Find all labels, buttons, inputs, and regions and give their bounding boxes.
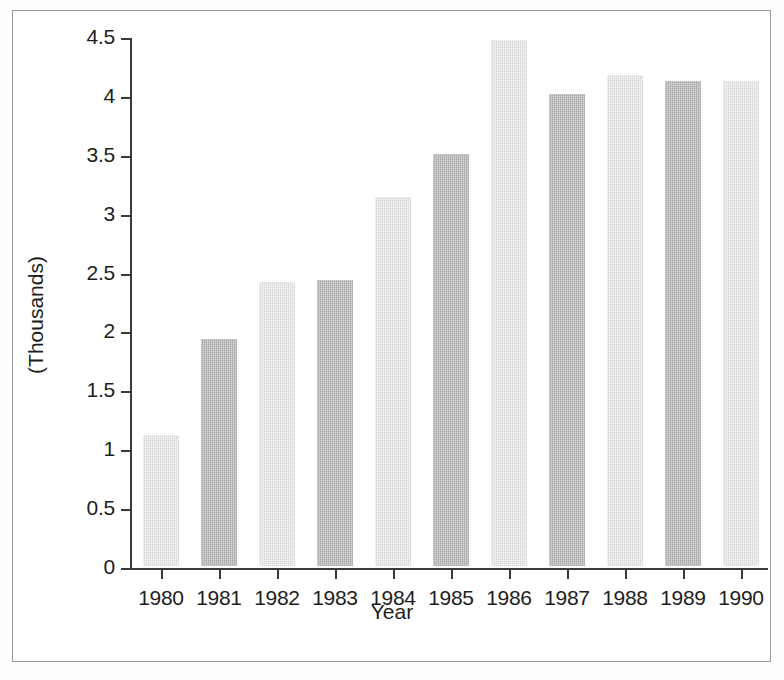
y-axis-tick-label: 0 xyxy=(55,555,115,579)
bar-1989 xyxy=(665,81,701,566)
y-axis-tick-label: 3.5 xyxy=(55,143,115,167)
figure-container: (Thousands) 00.511.522.533.544.5 1980198… xyxy=(0,0,784,680)
y-axis-tick xyxy=(121,97,131,99)
y-axis-line xyxy=(130,38,132,569)
x-axis-tick xyxy=(741,569,743,579)
x-axis-tick xyxy=(683,569,685,579)
x-axis-title: Year xyxy=(0,600,784,624)
y-axis-tick-label: 1.5 xyxy=(55,378,115,402)
y-axis-tick-label: 2.5 xyxy=(55,261,115,285)
y-axis-tick-label: 4 xyxy=(55,84,115,108)
x-axis-tick xyxy=(393,569,395,579)
x-axis-tick xyxy=(277,569,279,579)
y-axis-tick-label: 4.5 xyxy=(55,25,115,49)
bar-1982 xyxy=(259,282,295,566)
y-axis-tick xyxy=(121,215,131,217)
bar-1985 xyxy=(433,154,469,566)
x-axis-tick xyxy=(567,569,569,579)
y-axis-tick xyxy=(121,38,131,40)
plot-area: 00.511.522.533.544.5 1980198119821983198… xyxy=(130,38,768,568)
x-axis-tick xyxy=(509,569,511,579)
bar-1983 xyxy=(317,280,353,566)
y-axis-tick xyxy=(121,156,131,158)
y-axis-tick xyxy=(121,332,131,334)
y-axis-title-text: (Thousands) xyxy=(24,256,48,374)
bar-1980 xyxy=(143,435,179,566)
y-axis-tick xyxy=(121,391,131,393)
x-axis-tick xyxy=(451,569,453,579)
bar-1981 xyxy=(201,339,237,566)
bar-1988 xyxy=(607,75,643,566)
bar-1984 xyxy=(375,197,411,566)
y-axis-tick-label: 1 xyxy=(55,437,115,461)
x-axis-tick xyxy=(219,569,221,579)
bar-1986 xyxy=(491,40,527,566)
y-axis-tick xyxy=(121,509,131,511)
bar-1990 xyxy=(723,81,759,566)
x-axis-tick xyxy=(161,569,163,579)
x-axis-tick xyxy=(335,569,337,579)
y-axis-tick-label: 3 xyxy=(55,202,115,226)
y-axis-tick xyxy=(121,568,131,570)
x-axis-line xyxy=(130,568,768,570)
y-axis-tick xyxy=(121,450,131,452)
y-axis-tick-label: 0.5 xyxy=(55,496,115,520)
y-axis-tick xyxy=(121,274,131,276)
x-axis-tick xyxy=(625,569,627,579)
y-axis-title: (Thousands) xyxy=(18,185,54,445)
y-axis-tick-label: 2 xyxy=(55,319,115,343)
bar-1987 xyxy=(549,94,585,566)
